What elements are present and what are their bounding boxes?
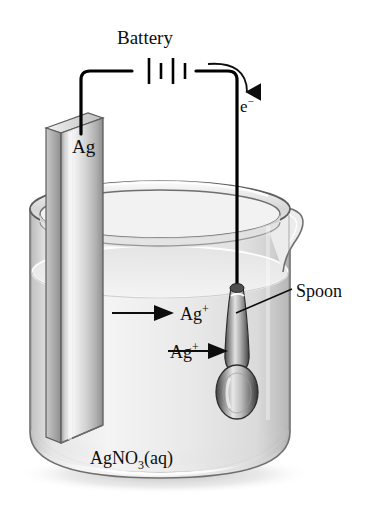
silver-ion-label-lower: Ag+ (170, 341, 199, 361)
ion-charge-upper: + (202, 302, 209, 316)
electrode-label: Ag (72, 137, 95, 156)
electron-symbol: e (240, 97, 248, 116)
electrode-front-face (61, 118, 103, 443)
solution-label: AgNO3(aq) (90, 449, 173, 471)
electroplating-diagram: Battery e− Ag Spoon Ag+ Ag+ AgNO3(aq) (0, 0, 379, 507)
electron-charge: − (248, 95, 254, 107)
battery-label: Battery (117, 28, 173, 47)
electron-flow-arrow (208, 64, 247, 92)
ion-symbol-lower: Ag (170, 342, 192, 362)
silver-ion-label-upper: Ag+ (180, 303, 209, 323)
solution-formula: AgNO (90, 448, 138, 468)
diagram-canvas (0, 0, 379, 507)
solution-state: (aq) (144, 448, 173, 468)
spoon-handle-cap (230, 284, 244, 293)
battery-symbol (149, 58, 185, 84)
ion-charge-lower: + (192, 340, 199, 354)
electrode-side-face (46, 128, 61, 443)
spoon-label: Spoon (296, 282, 342, 300)
silver-electrode (46, 113, 103, 443)
ion-symbol-upper: Ag (180, 304, 202, 324)
electron-label: e− (240, 96, 254, 115)
